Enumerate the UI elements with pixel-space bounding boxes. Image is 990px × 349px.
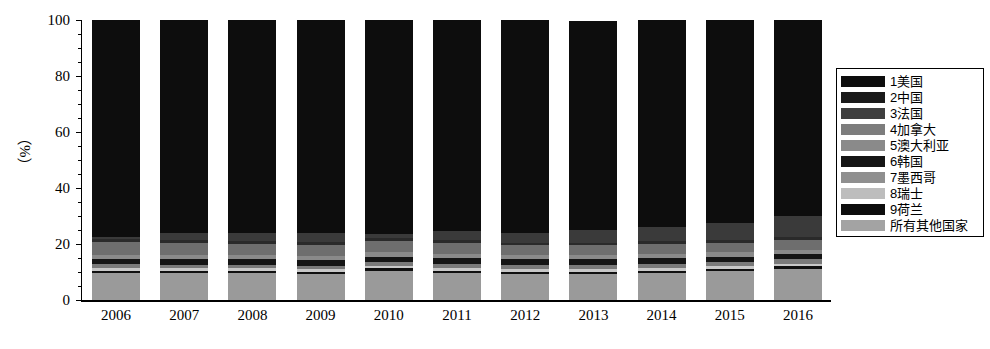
bar-2016[interactable] <box>774 20 822 300</box>
x-tick-label-2015: 2015 <box>706 307 754 324</box>
bar-segment <box>160 233 208 240</box>
x-tick-label-2010: 2010 <box>365 307 413 324</box>
legend-item[interactable]: 1美国 <box>841 73 980 89</box>
bar-segment <box>228 273 276 300</box>
legend-item[interactable]: 5澳大利亚 <box>841 137 980 153</box>
y-axis-tick-labels: 020406080100 <box>36 0 70 349</box>
chart-legend: 1美国2中国3法国4加拿大5澳大利亚6韩国7墨西哥8瑞士9荷兰所有其他国家 <box>836 68 984 237</box>
x-tick-label-2012: 2012 <box>501 307 549 324</box>
legend-swatch-icon <box>841 108 885 119</box>
bar-segment <box>433 273 481 300</box>
bar-segment <box>638 244 686 254</box>
bar-2006[interactable] <box>92 20 140 300</box>
x-tick-label-2008: 2008 <box>228 307 276 324</box>
bar-segment <box>433 20 481 231</box>
legend-item[interactable]: 所有其他国家 <box>841 217 980 233</box>
legend-label: 5澳大利亚 <box>890 139 949 152</box>
bar-segment <box>92 20 140 237</box>
legend-item[interactable]: 7墨西哥 <box>841 169 980 185</box>
bar-segment <box>160 20 208 233</box>
y-tick-label-100: 100 <box>36 15 70 25</box>
bar-segment <box>501 274 549 300</box>
bar-2010[interactable] <box>365 20 413 300</box>
y-tick-label-20: 20 <box>36 239 70 249</box>
y-tick-label-0: 0 <box>36 295 70 305</box>
legend-swatch-icon <box>841 220 885 231</box>
bar-segment <box>297 233 345 242</box>
legend-swatch-icon <box>841 204 885 215</box>
legend-item[interactable]: 9荷兰 <box>841 201 980 217</box>
x-tick-label-2016: 2016 <box>774 307 822 324</box>
bar-segment <box>365 241 413 252</box>
bar-segment <box>569 245 617 255</box>
legend-item[interactable]: 8瑞士 <box>841 185 980 201</box>
x-tick-label-2013: 2013 <box>569 307 617 324</box>
bar-segment <box>365 20 413 234</box>
bar-2009[interactable] <box>297 20 345 300</box>
legend-item[interactable]: 6韩国 <box>841 153 980 169</box>
y-tick-label-60: 60 <box>36 127 70 137</box>
bar-segment <box>433 243 481 254</box>
bar-segment <box>160 273 208 300</box>
bar-segment <box>569 21 617 230</box>
bar-segment <box>774 216 822 237</box>
bar-segment <box>228 20 276 233</box>
bar-segment <box>297 274 345 300</box>
bar-segment <box>228 244 276 255</box>
bar-2014[interactable] <box>638 20 686 300</box>
legend-swatch-icon <box>841 76 885 87</box>
legend-swatch-icon <box>841 188 885 199</box>
bar-2015[interactable] <box>706 20 754 300</box>
bar-segment <box>501 20 549 233</box>
bar-2011[interactable] <box>433 20 481 300</box>
legend-label: 2中国 <box>890 91 923 104</box>
legend-label: 4加拿大 <box>890 123 936 136</box>
y-tick-label-40: 40 <box>36 183 70 193</box>
bar-segment <box>297 245 345 256</box>
bar-segment <box>706 271 754 300</box>
legend-item[interactable]: 3法国 <box>841 105 980 121</box>
plot-area <box>81 20 833 301</box>
bar-segment <box>638 273 686 300</box>
bar-segment <box>160 243 208 256</box>
bar-segment <box>433 231 481 240</box>
x-tick-label-2014: 2014 <box>638 307 686 324</box>
bar-segment <box>297 20 345 233</box>
bar-segment <box>638 227 686 241</box>
legend-label: 7墨西哥 <box>890 171 936 184</box>
x-tick-label-2009: 2009 <box>297 307 345 324</box>
legend-label: 所有其他国家 <box>890 219 968 232</box>
bar-segment <box>706 243 754 253</box>
legend-label: 6韩国 <box>890 155 923 168</box>
bar-2008[interactable] <box>228 20 276 300</box>
legend-swatch-icon <box>841 172 885 183</box>
x-tick-label-2006: 2006 <box>92 307 140 324</box>
bar-2012[interactable] <box>501 20 549 300</box>
bar-segment <box>365 271 413 300</box>
y-axis-title: （%） <box>14 130 35 173</box>
legend-label: 8瑞士 <box>890 187 923 200</box>
legend-swatch-icon <box>841 140 885 151</box>
bar-segment <box>638 20 686 227</box>
bar-segment <box>92 242 140 255</box>
bar-2013[interactable] <box>569 21 617 300</box>
bar-segment <box>569 274 617 300</box>
legend-label: 9荷兰 <box>890 203 923 216</box>
legend-item[interactable]: 4加拿大 <box>841 121 980 137</box>
x-tick-label-2007: 2007 <box>160 307 208 324</box>
y-tick-label-80: 80 <box>36 71 70 81</box>
bar-2007[interactable] <box>160 20 208 300</box>
bar-segment <box>501 245 549 255</box>
legend-item[interactable]: 2中国 <box>841 89 980 105</box>
legend-swatch-icon <box>841 156 885 167</box>
bar-segment <box>774 269 822 300</box>
bar-segment <box>228 233 276 241</box>
bar-segment <box>569 230 617 243</box>
bar-segment <box>706 223 754 240</box>
legend-swatch-icon <box>841 124 885 135</box>
legend-label: 1美国 <box>890 75 923 88</box>
bar-segment <box>92 273 140 300</box>
bar-segment <box>706 20 754 223</box>
stacked-bar-chart: （%） 020406080100 20062007200820092010201… <box>0 0 990 349</box>
bar-segment <box>774 20 822 216</box>
